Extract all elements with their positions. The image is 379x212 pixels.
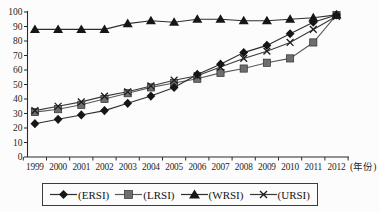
x-tick-label: 2004 — [142, 162, 160, 172]
x-tick-label: 2006 — [188, 162, 206, 172]
legend-item-ursi: (URSI) — [250, 189, 310, 201]
legend-label-lrsi: (LRSI) — [143, 189, 174, 201]
lrsi-point — [310, 39, 317, 46]
y-tick-label: 50 — [13, 80, 23, 90]
triangle-marker-icon — [181, 189, 208, 200]
ersi-point — [216, 60, 225, 69]
x-tick-label: 2005 — [165, 162, 183, 172]
ersi-point — [147, 92, 156, 101]
x-axis-unit-label: (年份) — [350, 161, 376, 173]
y-tick-label: 20 — [13, 123, 23, 133]
legend-item-wrsi: (WRSI) — [181, 189, 244, 201]
x-tick-label: 2000 — [49, 162, 67, 172]
x-marker-icon — [250, 189, 277, 200]
ersi-point — [123, 99, 132, 108]
ersi-point — [100, 106, 109, 115]
y-tick-label: 60 — [13, 65, 23, 75]
x-tick-label: 2009 — [258, 162, 276, 172]
x-tick-label: 2001 — [72, 162, 90, 172]
lrsi-point — [287, 55, 294, 62]
ersi-point — [286, 29, 295, 38]
x-tick-label: 2007 — [212, 162, 230, 172]
x-tick-label: 2011 — [305, 162, 323, 172]
x-tick-label: 2010 — [281, 162, 299, 172]
y-tick-label: 90 — [13, 22, 23, 32]
diamond-marker-icon — [50, 189, 77, 200]
y-tick-label: 0 — [18, 152, 23, 162]
wrsi-point — [216, 14, 226, 23]
x-tick-label: 2002 — [96, 162, 114, 172]
x-tick-label: 2008 — [235, 162, 253, 172]
y-tick-label: 30 — [13, 109, 23, 119]
legend-label-wrsi: (WRSI) — [209, 189, 244, 201]
lrsi-point — [124, 90, 131, 97]
lrsi-point — [263, 59, 270, 66]
wrsi-point — [30, 24, 40, 33]
wrsi-point — [53, 24, 63, 33]
y-tick-label: 10 — [13, 138, 23, 148]
x-tick-label: 2012 — [328, 162, 346, 172]
legend-label-ersi: (ERSI) — [78, 189, 109, 201]
x-tick-label: 1999 — [26, 162, 44, 172]
y-tick-label: 70 — [13, 51, 23, 61]
legend-item-ersi: (ERSI) — [50, 189, 109, 201]
lrsi-point — [31, 108, 38, 115]
legend-label-ursi: (URSI) — [278, 189, 310, 201]
line-chart-figure: 0102030405060708090100199920002001200220… — [0, 0, 379, 212]
square-marker-icon — [115, 189, 142, 200]
ersi-point — [77, 110, 86, 119]
wrsi-point — [76, 24, 86, 33]
y-tick-label: 80 — [13, 36, 23, 46]
y-tick-label: 40 — [13, 94, 23, 104]
ursi-point — [287, 39, 294, 46]
legend-item-lrsi: (LRSI) — [115, 189, 174, 201]
line-chart-canvas: 0102030405060708090100199920002001200220… — [0, 0, 379, 182]
chart-legend: (ERSI) (LRSI) (WRSI) (URSI) — [42, 183, 318, 206]
ersi-point — [54, 115, 63, 124]
lrsi-point — [147, 84, 154, 91]
ersi-point — [31, 119, 40, 128]
wrsi-point — [146, 16, 156, 25]
ursi-point — [310, 26, 317, 33]
lrsi-point — [240, 65, 247, 72]
x-tick-label: 2003 — [119, 162, 137, 172]
wrsi-point — [192, 14, 202, 23]
y-tick-label: 100 — [8, 7, 23, 17]
